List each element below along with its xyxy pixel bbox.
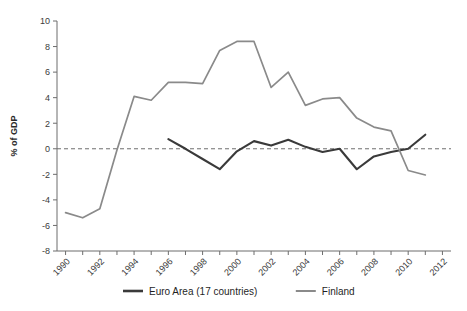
chart-container: 1086420-2-4-6-8 199019921994199619982000… bbox=[0, 0, 467, 311]
y-axis-title: % of GDP bbox=[9, 115, 19, 156]
x-tick-label: 2004 bbox=[291, 256, 312, 277]
y-tick-label: -8 bbox=[42, 246, 50, 256]
legend-label-euro-area: Euro Area (17 countries) bbox=[149, 286, 257, 297]
y-axis-tick-labels: 1086420-2-4-6-8 bbox=[40, 16, 50, 256]
x-axis: 1990199219941996199820002002200420062008… bbox=[51, 251, 451, 278]
y-tick-label: -2 bbox=[42, 170, 50, 180]
x-tick-label: 1998 bbox=[188, 256, 209, 277]
x-tick-label: 2010 bbox=[393, 256, 414, 277]
series-line-finland bbox=[66, 41, 426, 217]
y-tick-label: 8 bbox=[45, 42, 50, 52]
legend-label-finland: Finland bbox=[322, 286, 355, 297]
y-axis: 1086420-2-4-6-8 bbox=[40, 16, 57, 256]
x-tick-label: 2008 bbox=[359, 256, 380, 277]
x-axis-tick-labels: 1990199219941996199820002002200420062008… bbox=[51, 256, 449, 277]
y-tick-label: 6 bbox=[45, 67, 50, 77]
y-tick-label: 4 bbox=[45, 93, 50, 103]
x-tick-label: 2012 bbox=[428, 256, 449, 277]
y-tick-label: 0 bbox=[45, 144, 50, 154]
x-tick-label: 1990 bbox=[51, 256, 72, 277]
x-tick-label: 2002 bbox=[256, 256, 277, 277]
x-tick-label: 1992 bbox=[85, 256, 106, 277]
x-tick-label: 2006 bbox=[325, 256, 346, 277]
series-line-euro-area-17-countries bbox=[168, 135, 425, 170]
x-tick-label: 1994 bbox=[119, 256, 140, 277]
y-tick-label: -4 bbox=[42, 195, 50, 205]
line-chart: 1086420-2-4-6-8 199019921994199619982000… bbox=[0, 0, 467, 311]
y-tick-label: 2 bbox=[45, 119, 50, 129]
data-series-group bbox=[66, 41, 426, 217]
x-axis-ticks bbox=[66, 251, 443, 255]
y-tick-label: -6 bbox=[42, 221, 50, 231]
chart-legend: Euro Area (17 countries)Finland bbox=[123, 286, 355, 297]
x-tick-label: 2000 bbox=[222, 256, 243, 277]
y-axis-ticks bbox=[53, 21, 57, 251]
x-tick-label: 1996 bbox=[154, 256, 175, 277]
y-tick-label: 10 bbox=[40, 16, 50, 26]
